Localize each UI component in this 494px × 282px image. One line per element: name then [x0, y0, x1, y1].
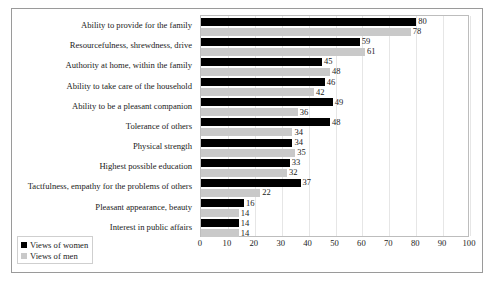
bar-group: 3435	[201, 137, 468, 157]
gridline	[470, 16, 471, 236]
chart-figure: Ability to provide for the familyResourc…	[11, 8, 483, 273]
bar-women	[201, 118, 330, 126]
bar-men	[201, 28, 411, 36]
bar-group: 1614	[201, 198, 468, 218]
bar-women	[201, 98, 333, 106]
bar-value-label: 16	[246, 199, 255, 207]
bar-women	[201, 219, 239, 227]
bar-value-label: 32	[289, 168, 298, 176]
category-label: Ability to take care of the household	[66, 76, 192, 96]
bar-value-label: 59	[362, 37, 371, 45]
bar-value-label: 35	[297, 148, 306, 156]
bar-group: 4642	[201, 77, 468, 97]
bar-group: 3722	[201, 177, 468, 197]
bar-value-label: 49	[335, 98, 344, 106]
legend-swatch-icon	[21, 253, 27, 259]
bar-men	[201, 149, 295, 157]
bar-men	[201, 229, 239, 237]
category-axis-labels: Ability to provide for the familyResourc…	[12, 15, 196, 237]
bar-men	[201, 88, 314, 96]
legend-label: Views of men	[30, 251, 78, 261]
plot-area: 8078596145484642493648343435333237221614…	[200, 15, 469, 237]
category-label: Highest possible education	[99, 156, 192, 176]
bar-value-label: 42	[316, 88, 325, 96]
x-axis-tick-label: 30	[276, 238, 285, 248]
bar-men	[201, 209, 239, 217]
bar-men	[201, 68, 330, 76]
bar-value-label: 48	[332, 67, 341, 75]
x-axis-tick-label: 90	[438, 238, 447, 248]
bar-women	[201, 78, 325, 86]
bar-women	[201, 38, 360, 46]
bar-value-label: 61	[367, 47, 376, 55]
bar-groups: 8078596145484642493648343435333237221614…	[201, 16, 468, 236]
bar-women	[201, 159, 290, 167]
bar-group: 4548	[201, 56, 468, 76]
bar-value-label: 14	[241, 209, 250, 217]
bar-value-label: 34	[294, 128, 303, 136]
category-label: Authority at home, within the family	[66, 55, 193, 75]
bar-value-label: 22	[262, 188, 271, 196]
x-axis-tick-label: 60	[357, 238, 366, 248]
x-axis-tick-label: 0	[198, 238, 202, 248]
bar-group: 1414	[201, 218, 468, 238]
category-label: Tolerance of others	[126, 116, 192, 136]
x-axis: 0102030405060708090100	[200, 238, 469, 254]
category-label: Interest in public affairs	[110, 217, 192, 237]
bar-women	[201, 58, 322, 66]
bar-men	[201, 48, 365, 56]
bar-value-label: 14	[241, 219, 250, 227]
category-label: Ability to be a pleasant companion	[72, 96, 192, 116]
bar-value-label: 80	[418, 17, 427, 25]
bar-value-label: 78	[413, 27, 422, 35]
bar-value-label: 45	[324, 57, 333, 65]
x-axis-tick-label: 80	[411, 238, 420, 248]
x-axis-tick-label: 70	[384, 238, 393, 248]
bar-women	[201, 199, 244, 207]
x-axis-tick-label: 40	[303, 238, 312, 248]
x-axis-tick-label: 100	[463, 238, 476, 248]
category-label: Ability to provide for the family	[81, 15, 192, 35]
bar-women	[201, 139, 292, 147]
legend-swatch-icon	[21, 242, 27, 248]
bar-value-label: 14	[241, 229, 250, 237]
bar-group: 5961	[201, 36, 468, 56]
bar-group: 4936	[201, 97, 468, 117]
legend-item: Views of men	[21, 250, 88, 261]
bar-men	[201, 169, 287, 177]
x-axis-tick-label: 20	[250, 238, 259, 248]
bar-women	[201, 179, 301, 187]
bar-men	[201, 108, 298, 116]
bar-value-label: 37	[303, 178, 312, 186]
bar-men	[201, 128, 292, 136]
bar-group: 8078	[201, 16, 468, 36]
x-axis-tick-label: 10	[223, 238, 232, 248]
bar-value-label: 33	[292, 158, 301, 166]
legend-item: Views of women	[21, 239, 88, 250]
category-label: Pleasant appearance, beauty	[95, 197, 192, 217]
x-axis-tick-label: 50	[330, 238, 339, 248]
bar-group: 4834	[201, 117, 468, 137]
category-label: Physical strength	[133, 136, 192, 156]
chart-legend: Views of womenViews of men	[17, 236, 93, 264]
bar-women	[201, 18, 416, 26]
category-label: Resourcefulness, shrewdness, drive	[70, 35, 192, 55]
bar-group: 3332	[201, 157, 468, 177]
bar-value-label: 34	[294, 138, 303, 146]
bar-men	[201, 189, 260, 197]
legend-label: Views of women	[30, 240, 88, 250]
category-label: Tactfulness, empathy for the problems of…	[28, 176, 192, 196]
bar-value-label: 36	[300, 108, 309, 116]
bar-value-label: 48	[332, 118, 341, 126]
bar-value-label: 46	[327, 78, 336, 86]
